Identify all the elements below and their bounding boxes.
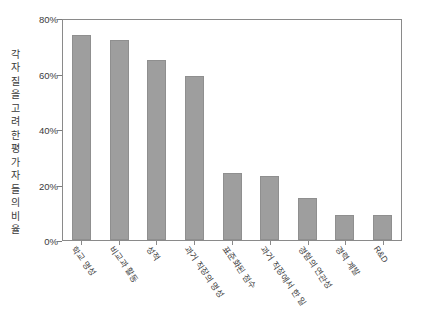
x-tick-mark (232, 241, 233, 245)
bar-cell (251, 20, 289, 240)
x-tick-mark (119, 241, 120, 245)
y-tick-mark (57, 186, 62, 187)
y-tick-label: 80% (39, 14, 58, 25)
bar (110, 40, 129, 240)
y-tick-mark (57, 75, 62, 76)
bar-cell (63, 20, 101, 240)
y-tick-mark (57, 241, 62, 242)
x-tick-mark (383, 241, 384, 245)
x-tick-mark (156, 241, 157, 245)
x-tick-label: 성적 (145, 244, 162, 263)
y-tick-label: 40% (39, 125, 58, 136)
y-tick-mark (57, 130, 62, 131)
y-tick-label: 20% (39, 180, 58, 191)
x-tick-mark (308, 241, 309, 245)
x-tick-mark (194, 241, 195, 245)
bar (72, 35, 91, 240)
bar (185, 76, 204, 240)
x-tick-label: R&D (372, 244, 390, 264)
x-tick-mark (81, 241, 82, 245)
bar (335, 215, 354, 240)
y-axis-title: 각 자질을 고려한 평가자들의 비율 (2, 26, 28, 258)
bar-cell (288, 20, 326, 240)
x-tick-label: 표준화된 점수 (221, 244, 258, 291)
x-tick-mark (345, 241, 346, 245)
bar-cell (176, 20, 214, 240)
x-tick-label: 비교과 활동 (107, 244, 139, 284)
bar (298, 198, 317, 240)
x-tick-mark (270, 241, 271, 245)
bar-cell (101, 20, 139, 240)
bar (260, 176, 279, 240)
bar-series (63, 20, 401, 240)
bar-cell (138, 20, 176, 240)
x-axis-tick-labels: 학교 명성비교과 활동성적과거 직장의 명성표준화된 점수과거 직장에서 한 일… (62, 244, 402, 332)
bar-cell (326, 20, 364, 240)
x-tick-label: 경력 계발 (334, 244, 362, 278)
bar-chart-figure: 각 자질을 고려한 평가자들의 비율 80%60%40%20%0% 학교 명성비… (0, 0, 424, 332)
bar-cell (213, 20, 251, 240)
x-tick-label: 과거 직장의 명성 (183, 244, 226, 299)
y-axis-title-text: 각 자질을 고려한 평가자들의 비율 (9, 48, 22, 237)
y-tick-label: 60% (39, 69, 58, 80)
y-tick-label: 0% (44, 236, 58, 247)
bar (373, 215, 392, 240)
bar-cell (364, 20, 402, 240)
y-axis-tick-labels: 80%60%40%20%0% (28, 0, 58, 332)
y-tick-mark (57, 19, 62, 20)
bar (147, 60, 166, 240)
plot-area (62, 19, 402, 241)
x-tick-label: 경험의 연관성 (296, 244, 333, 291)
x-tick-label: 학교 명성 (70, 244, 98, 278)
bar (223, 173, 242, 240)
